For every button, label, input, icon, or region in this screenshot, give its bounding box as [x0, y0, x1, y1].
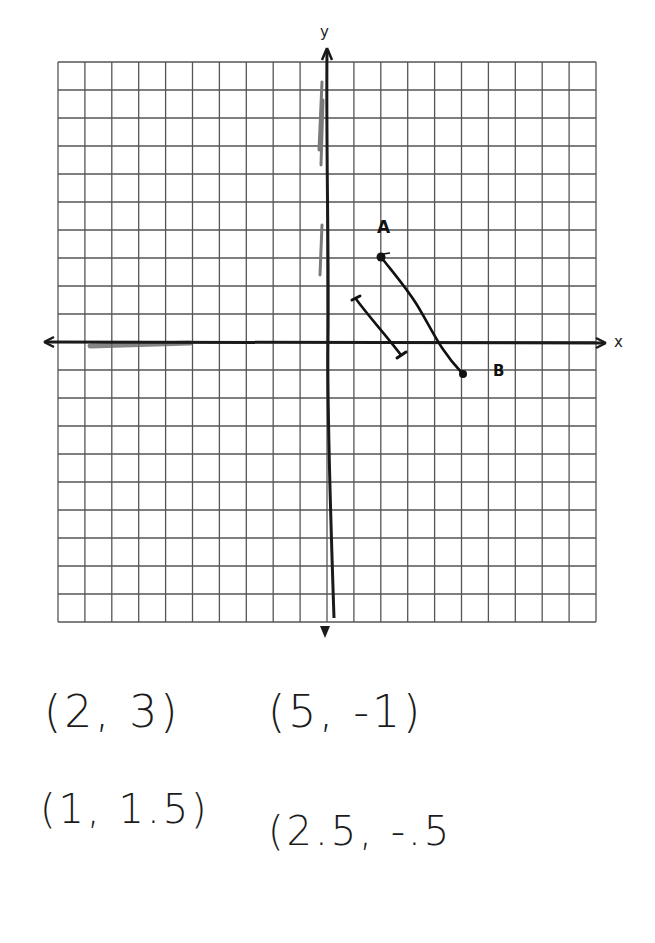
coordinate-note-2: (5, -1) — [268, 686, 423, 737]
point-B-dot — [459, 370, 467, 378]
segment-small — [356, 299, 401, 355]
point-A-tick — [383, 253, 390, 254]
y-axis-label: y — [320, 23, 329, 41]
coordinate-note-1: (2, 3) — [44, 686, 180, 737]
point-B-label: B — [493, 362, 504, 380]
x-axis-label: x — [614, 333, 623, 351]
coordinate-note-4: (2.5, -.5 — [268, 808, 452, 854]
plotted-segments: A B — [352, 217, 504, 380]
point-A-label: A — [377, 217, 391, 237]
graph-worksheet: y x A B (2, 3) (5, -1) (1, 1.5) (2.5, -.… — [0, 0, 655, 943]
segment-AB — [381, 257, 462, 373]
x-axis-line — [46, 342, 604, 343]
coordinate-note-3: (1, 1.5) — [40, 786, 210, 832]
coordinate-plane: y x A B — [0, 0, 655, 660]
axes: y x — [44, 23, 623, 638]
y-axis-down-arrow-icon — [320, 626, 330, 638]
pencil-mark-y-axis — [319, 82, 323, 275]
y-axis-line — [327, 50, 334, 618]
segment-small-start-tick — [352, 296, 360, 300]
